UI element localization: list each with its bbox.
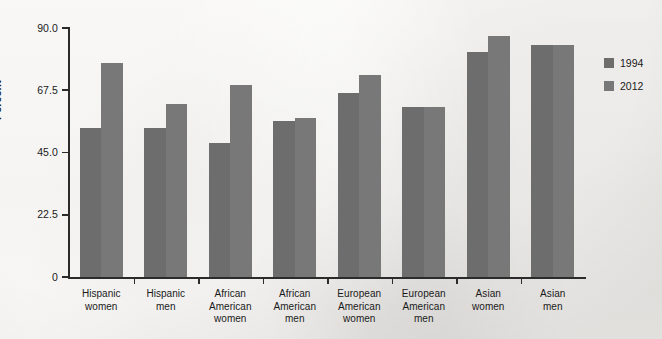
grouped-bar-chart: Percent 022.545.067.590.0 Hispanic women…	[0, 0, 662, 339]
bar-1994-european-american-women	[338, 93, 360, 277]
bar-1994-european-american-men	[402, 107, 424, 277]
legend-label: 2012	[620, 81, 643, 92]
x-axis-tick-mark	[392, 277, 394, 284]
bar-2012-european-american-men	[424, 107, 446, 277]
legend-swatch-icon	[604, 81, 614, 91]
x-axis-label-asian-men: Asian men	[517, 288, 590, 313]
x-axis-tick-mark	[456, 277, 458, 284]
x-axis-label-african-american-men: African American men	[259, 288, 332, 326]
legend-item-2012: 2012	[604, 81, 643, 92]
x-axis-tick-mark	[198, 277, 200, 284]
bar-1994-african-american-men	[273, 121, 295, 277]
y-axis-tick-label: 0	[52, 272, 58, 283]
legend-item-1994: 1994	[604, 58, 643, 69]
x-axis-tick-mark	[327, 277, 329, 284]
y-axis-tick-label: 22.5	[37, 209, 58, 220]
bar-2012-asian-women	[488, 36, 510, 277]
bar-2012-african-american-men	[295, 118, 317, 277]
legend-label: 1994	[620, 58, 643, 69]
x-axis-label-hispanic-men: Hispanic men	[130, 288, 203, 313]
plot-area	[69, 28, 585, 277]
x-axis-label-european-american-men: European American men	[388, 288, 461, 326]
x-axis-label-european-american-women: European American women	[323, 288, 396, 326]
x-axis-label-asian-women: Asian women	[452, 288, 525, 313]
y-axis-tick-label: 45.0	[37, 147, 58, 158]
x-axis-label-african-american-women: African American women	[194, 288, 267, 326]
y-axis-title: Percent	[0, 80, 3, 120]
x-axis-tick-mark	[521, 277, 523, 284]
bar-2012-african-american-women	[230, 85, 252, 277]
bar-1994-hispanic-women	[80, 128, 102, 277]
legend-swatch-icon	[604, 58, 614, 68]
x-axis-tick-mark	[134, 277, 136, 284]
bar-2012-asian-men	[553, 45, 575, 277]
chart-legend: 19942012	[604, 58, 643, 103]
bar-2012-hispanic-women	[101, 63, 123, 277]
bar-1994-asian-men	[531, 45, 553, 277]
bar-1994-hispanic-men	[144, 128, 166, 277]
bar-1994-african-american-women	[209, 143, 231, 277]
x-axis-label-hispanic-women: Hispanic women	[65, 288, 138, 313]
y-axis-tick-label: 90.0	[37, 23, 58, 34]
bar-1994-asian-women	[467, 52, 489, 277]
x-axis-tick-mark	[263, 277, 265, 284]
bar-2012-hispanic-men	[166, 104, 188, 277]
bar-2012-european-american-women	[359, 75, 381, 277]
y-axis-tick-label: 67.5	[37, 85, 58, 96]
